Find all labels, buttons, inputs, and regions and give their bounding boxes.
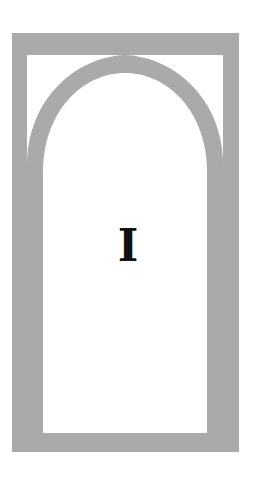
- drop-cap-letter: I: [0, 222, 256, 270]
